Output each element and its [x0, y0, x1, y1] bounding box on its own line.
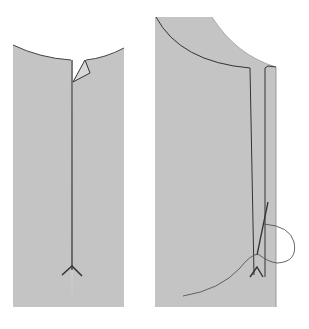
- left-panel: [13, 45, 124, 307]
- sewing-diagram: [0, 0, 309, 329]
- left-fabric: [13, 45, 72, 307]
- right-panel: [155, 17, 295, 307]
- left-fabric-right: [72, 48, 124, 307]
- right-fabric: [155, 17, 276, 307]
